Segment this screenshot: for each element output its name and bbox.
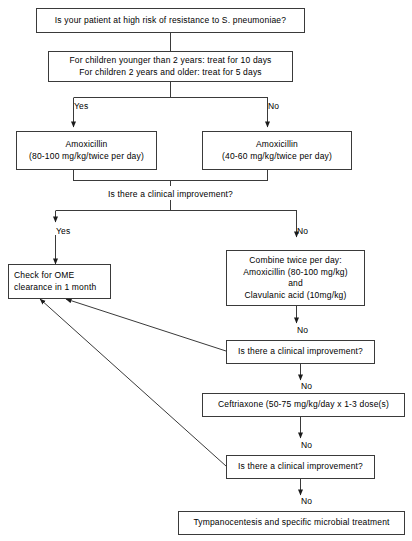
edge-label-improvement1-yes: Yes (56, 226, 70, 236)
node-treatment-duration-line-2: For children 2 years and older: treat fo… (79, 67, 262, 79)
node-check-ome: Check for OME clearance in 1 month (8, 264, 111, 299)
node-ceftriaxone-line-1: Ceftriaxone (50-75 mg/kg/day x 1-3 dose(… (218, 399, 389, 411)
node-tympanocentesis-line-1: Tympanocentesis and specific microbial t… (193, 517, 389, 529)
edge-label-improvement1-no: No (297, 226, 308, 236)
node-tympanocentesis: Tympanocentesis and specific microbial t… (178, 511, 405, 535)
edge-label-risk-yes: Yes (74, 101, 88, 111)
edge-label-improvement2-no: No (301, 381, 312, 391)
node-improvement-question-2: Is there a clinical improvement? (226, 340, 375, 364)
node-combine-therapy-line-2: Amoxicillin (80-100 mg/kg) (243, 267, 348, 279)
node-risk-question: Is your patient at high risk of resistan… (36, 8, 305, 33)
edge-label-risk-no: No (268, 101, 279, 111)
node-combine-therapy-line-3: and (288, 278, 303, 290)
node-amoxicillin-high-dose-line-1: Amoxicillin (65, 139, 107, 151)
node-risk-question-line-1: Is your patient at high risk of resistan… (55, 15, 286, 27)
flowchart-diagram: Is your patient at high risk of resistan… (0, 0, 412, 541)
edge-label-improvement3-no: No (301, 496, 312, 506)
node-treatment-duration-line-1: For children younger than 2 years: treat… (69, 55, 271, 67)
node-combine-therapy-line-1: Combine twice per day: (249, 255, 342, 267)
node-improvement-question-1-line-1: Is there a clinical improvement? (108, 189, 233, 199)
node-ceftriaxone: Ceftriaxone (50-75 mg/kg/day x 1-3 dose(… (202, 393, 405, 417)
node-improvement-question-1: Is there a clinical improvement? (102, 189, 239, 200)
node-amoxicillin-high-dose: Amoxicillin (80-100 mg/kg/twice per day) (16, 131, 157, 170)
edge-label-ceftriaxone-no: No (301, 440, 312, 450)
node-treatment-duration: For children younger than 2 years: treat… (48, 51, 293, 82)
node-improvement-question-3-line-1: Is there a clinical improvement? (238, 461, 363, 473)
node-combine-therapy-line-4: Clavulanic acid (10mg/kg) (244, 290, 346, 302)
node-check-ome-line-2: clearance in 1 month (14, 282, 96, 294)
node-amoxicillin-high-dose-line-2: (80-100 mg/kg/twice per day) (29, 151, 144, 163)
node-combine-therapy: Combine twice per day: Amoxicillin (80-1… (226, 250, 365, 306)
edge-label-combine-no: No (297, 325, 308, 335)
node-amoxicillin-low-dose: Amoxicillin (40-60 mg/kg/twice per day) (202, 131, 352, 170)
node-check-ome-line-1: Check for OME (14, 270, 74, 282)
node-amoxicillin-low-dose-line-1: Amoxicillin (256, 139, 298, 151)
node-improvement-question-3: Is there a clinical improvement? (226, 455, 375, 479)
node-amoxicillin-low-dose-line-2: (40-60 mg/kg/twice per day) (222, 151, 332, 163)
node-improvement-question-2-line-1: Is there a clinical improvement? (238, 346, 363, 358)
